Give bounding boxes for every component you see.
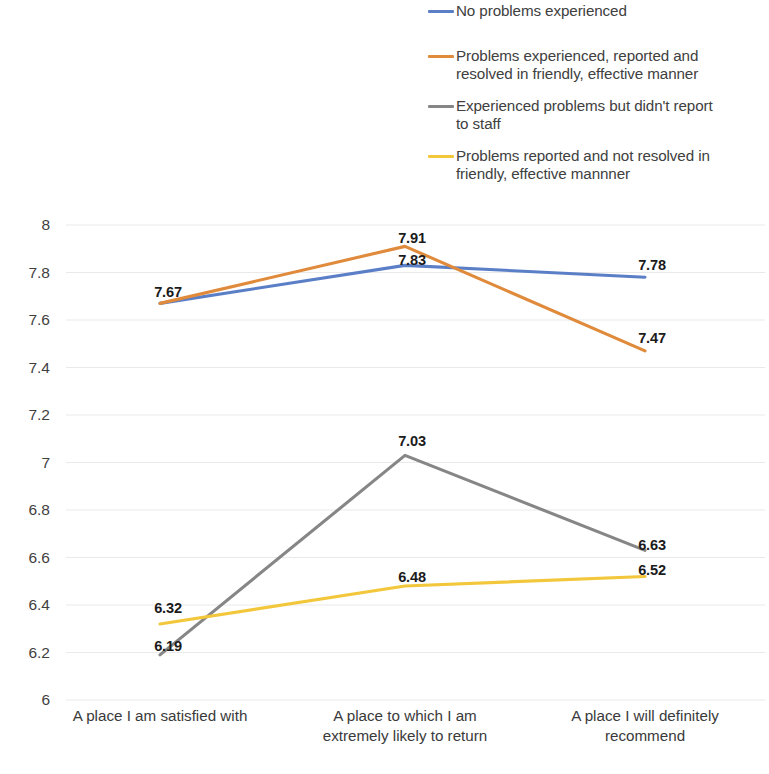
y-tick-label: 6.2 — [8, 644, 50, 662]
x-label-line: recommend — [605, 727, 685, 744]
plot-area — [0, 0, 769, 774]
y-tick-label: 7.8 — [8, 264, 50, 282]
series-line-2 — [160, 455, 645, 655]
x-category-label: A place I will definitelyrecommend — [521, 706, 769, 746]
x-label-line: A place I am satisfied with — [73, 707, 248, 724]
x-category-label: A place to which I amextremely likely to… — [281, 706, 529, 746]
series-lines — [160, 246, 645, 655]
x-label-line: A place I will definitely — [571, 707, 719, 724]
y-tick-label: 6.6 — [8, 549, 50, 567]
y-tick-label: 7.4 — [8, 359, 50, 377]
y-tick-label: 6.8 — [8, 501, 50, 519]
data-value-label: 6.63 — [638, 537, 666, 553]
y-tick-label: 7 — [8, 454, 50, 472]
x-label-line: extremely likely to return — [323, 727, 488, 744]
series-line-0 — [160, 265, 645, 303]
x-label-line: A place to which I am — [333, 707, 477, 724]
y-tick-label: 7.6 — [8, 311, 50, 329]
data-value-label: 7.03 — [398, 433, 426, 449]
data-value-label: 6.32 — [154, 600, 182, 616]
line-chart: No problems experienced Problems experie… — [0, 0, 769, 774]
y-tick-label: 7.2 — [8, 406, 50, 424]
data-value-label: 6.48 — [398, 569, 426, 585]
data-value-label: 7.67 — [154, 284, 182, 300]
data-value-label: 7.47 — [638, 330, 666, 346]
data-value-label: 7.91 — [398, 230, 426, 246]
y-tick-label: 8 — [8, 216, 50, 234]
plot-svg — [0, 0, 769, 774]
data-value-label: 6.19 — [154, 638, 182, 654]
x-category-label: A place I am satisfied with — [36, 706, 284, 726]
data-value-label: 7.83 — [398, 252, 426, 268]
y-tick-label: 6.4 — [8, 596, 50, 614]
data-value-label: 6.52 — [638, 562, 666, 578]
data-value-label: 7.78 — [638, 257, 666, 273]
